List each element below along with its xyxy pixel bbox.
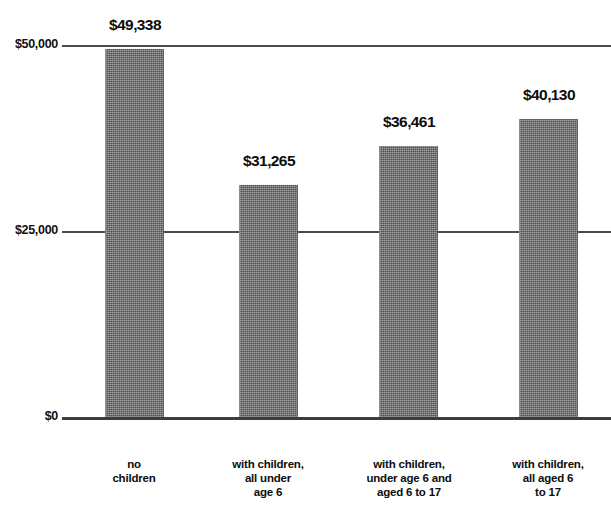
bar-value-label: $31,265 (214, 152, 324, 170)
bar-value-label: $36,461 (354, 113, 464, 131)
plot-area: $50,000 $25,000 $0 $49,338 $31,265 $36,4… (0, 0, 611, 440)
y-axis-tick-label: $25,000 (15, 223, 58, 237)
gridline-50000 (62, 45, 611, 47)
axis-baseline-0 (62, 417, 611, 420)
bar-with-children-all-under-6 (239, 185, 298, 417)
bar-with-children-all-6-to-17 (519, 119, 578, 417)
y-axis-tick-label: $50,000 (15, 37, 58, 51)
x-axis-label-no-children: no children (74, 457, 194, 485)
x-axis-label-all-under-6: with children, all under age 6 (208, 457, 328, 499)
bar-chart: $50,000 $25,000 $0 $49,338 $31,265 $36,4… (0, 0, 611, 507)
bar-value-label: $49,338 (80, 16, 190, 34)
y-axis-tick-label: $0 (45, 409, 58, 423)
bar-no-children (105, 49, 164, 417)
x-axis-label-mixed-ages: with children, under age 6 and aged 6 to… (341, 457, 477, 499)
bar-with-children-mixed-ages (379, 146, 438, 417)
bar-value-label: $40,130 (494, 86, 604, 104)
x-axis-label-all-6-to-17: with children, all aged 6 to 17 (488, 457, 608, 499)
